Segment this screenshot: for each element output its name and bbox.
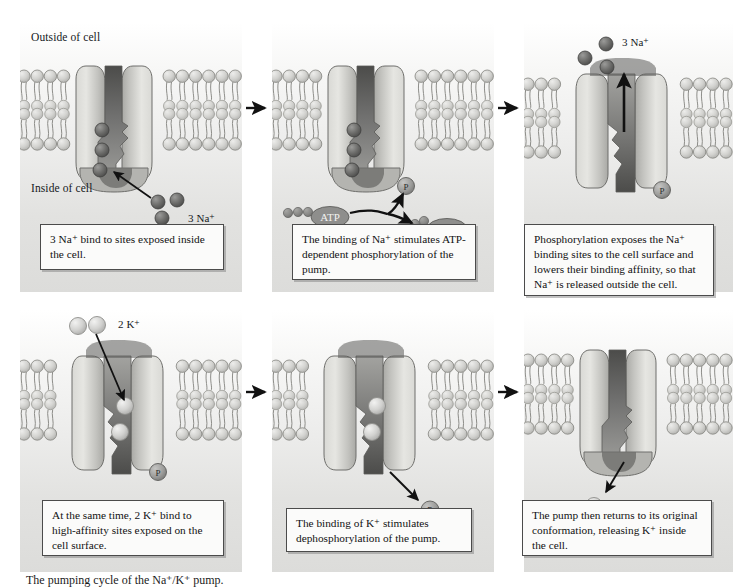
caption-text-panel-5: The binding of K⁺ stimulates dephosphory… <box>296 516 462 546</box>
label-potassium-count-panel4: 2 K⁺ <box>118 318 141 331</box>
svg-text:ATP: ATP <box>320 211 340 223</box>
arrow-panel5-to-panel6 <box>496 382 526 402</box>
pump-protein-inward <box>580 350 656 476</box>
svg-text:P: P <box>155 468 160 478</box>
free-potassium-ions <box>70 317 106 335</box>
caption-box-panel-1: 3 Na⁺ bind to sites exposed inside the c… <box>40 224 224 270</box>
label-inside-of-cell: Inside of cell <box>31 182 92 194</box>
caption-box-panel-4: At the same time, 2 K⁺ bind to high-affi… <box>42 500 224 556</box>
atp-reaction-arrow-in <box>350 211 388 214</box>
bound-sodium-ions <box>93 123 109 177</box>
arrow-panel1-to-panel2 <box>244 98 274 118</box>
phosphate-group-on-pump: P <box>654 182 671 199</box>
adp-release-arrow <box>388 214 412 223</box>
caption-text-panel-3: Phosphorylation exposes the Na⁺ binding … <box>534 232 704 292</box>
arrow-panel4-to-panel5 <box>244 382 274 402</box>
svg-text:P: P <box>403 182 408 192</box>
bound-sodium-ions <box>345 123 361 177</box>
caption-text-panel-1: 3 Na⁺ bind to sites exposed inside the c… <box>50 232 214 262</box>
arrow-panel2-to-panel3 <box>496 98 526 118</box>
caption-text-panel-4: At the same time, 2 K⁺ bind to high-affi… <box>52 508 214 553</box>
free-sodium-ions <box>151 193 184 225</box>
pump-protein-inward <box>328 66 404 192</box>
svg-text:P: P <box>659 186 664 196</box>
pump-protein-outward <box>576 58 667 192</box>
caption-box-panel-2: The binding of Na⁺ stimulates ATP-depend… <box>292 224 476 280</box>
label-sodium-count-panel3: 3 Na⁺ <box>622 36 650 49</box>
phosphate-group-on-pump: P <box>398 178 415 195</box>
dephosphorylation-arrow <box>390 472 418 500</box>
phosphate-group-on-pump: P <box>150 464 167 481</box>
caption-box-panel-6: The pump then returns to its original co… <box>522 500 712 556</box>
phosphorylation-arrow <box>388 194 403 214</box>
caption-text-panel-2: The binding of Na⁺ stimulates ATP-depend… <box>302 232 466 277</box>
label-outside-of-cell: Outside of cell <box>31 31 100 43</box>
caption-box-panel-5: The binding of K⁺ stimulates dephosphory… <box>286 508 472 552</box>
caption-text-panel-6: The pump then returns to its original co… <box>532 508 702 553</box>
caption-box-panel-3: Phosphorylation exposes the Na⁺ binding … <box>524 224 714 296</box>
figure-caption: The pumping cycle of the Na⁺/K⁺ pump. <box>26 573 224 588</box>
pump-protein-inward <box>76 66 152 192</box>
